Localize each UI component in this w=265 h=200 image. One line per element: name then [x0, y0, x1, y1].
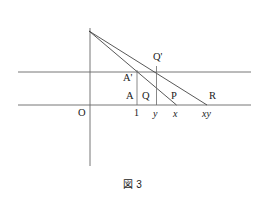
tick-label-xy: xy: [202, 109, 211, 119]
tick-label-one: 1: [134, 108, 139, 118]
point-label-p: P: [171, 91, 177, 102]
figure-caption: 図 3: [0, 176, 265, 191]
figure-container: A' Q' A Q P R O 1 y x xy 図 3: [0, 0, 265, 200]
point-label-q: Q: [142, 91, 150, 102]
tick-label-x: x: [173, 109, 177, 119]
point-label-origin: O: [78, 108, 86, 119]
point-label-q-prime: Q': [153, 52, 162, 63]
tick-label-y: y: [153, 109, 157, 119]
point-label-a: A: [126, 91, 134, 102]
point-label-r: R: [209, 91, 216, 102]
point-label-a-prime: A': [123, 73, 132, 84]
